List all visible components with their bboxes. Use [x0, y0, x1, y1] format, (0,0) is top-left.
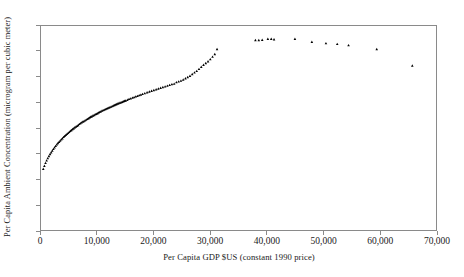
data-point-marker — [254, 39, 257, 41]
x-tick-label: 40,000 — [237, 236, 297, 246]
x-tick-mark — [96, 231, 97, 235]
data-point-marker — [180, 79, 183, 81]
data-point-marker — [182, 78, 185, 80]
data-point-marker — [209, 58, 212, 60]
y-axis-title: Per Capita Ambient Concentration (microg… — [1, 2, 15, 252]
x-tick-label: 60,000 — [350, 236, 410, 246]
data-point-marker — [164, 85, 167, 87]
data-point-marker — [46, 157, 49, 159]
data-point-marker — [42, 168, 45, 170]
plot-area — [40, 25, 437, 231]
data-point-marker — [216, 48, 219, 50]
data-point-marker — [166, 84, 169, 86]
data-point-marker — [191, 73, 194, 75]
data-point-marker — [198, 68, 201, 70]
data-point-marker — [325, 42, 328, 44]
data-point-marker — [155, 88, 158, 90]
data-point-marker — [189, 75, 192, 77]
data-point-marker — [202, 64, 205, 66]
y-tick-mark — [36, 205, 40, 206]
data-point-marker — [375, 48, 378, 50]
x-tick-label: 0 — [10, 236, 70, 246]
y-tick-mark — [36, 50, 40, 51]
data-point-marker — [159, 87, 162, 89]
data-point-marker — [144, 92, 147, 94]
data-point-marker — [148, 90, 151, 92]
data-point-marker — [200, 66, 203, 68]
data-point-marker — [347, 44, 350, 46]
y-tick-mark — [36, 179, 40, 180]
data-point-marker — [261, 39, 264, 41]
x-tick-mark — [380, 231, 381, 235]
data-point-marker — [162, 86, 165, 88]
data-point-marker — [150, 90, 153, 92]
x-tick-mark — [153, 231, 154, 235]
data-point-marker — [336, 43, 339, 45]
data-point-marker — [48, 155, 51, 157]
data-point-marker — [204, 62, 207, 64]
data-point-marker — [44, 162, 47, 164]
y-tick-mark — [36, 128, 40, 129]
data-point-marker — [207, 60, 210, 62]
x-axis-title: Per Capita GDP $US (constant 1990 price) — [40, 252, 438, 262]
data-point-marker — [193, 71, 196, 73]
chart-figure: Per Capita Ambient Concentration (microg… — [0, 0, 464, 277]
data-point-marker — [273, 38, 276, 40]
x-tick-label: 20,000 — [123, 236, 183, 246]
data-point-marker — [311, 41, 314, 43]
y-tick-mark — [36, 76, 40, 77]
data-point-marker — [175, 81, 178, 83]
data-point-marker — [411, 64, 414, 66]
data-point-marker — [146, 91, 149, 93]
x-tick-mark — [40, 231, 41, 235]
data-point-marker — [184, 77, 187, 79]
x-tick-mark — [323, 231, 324, 235]
scatter-points — [41, 26, 436, 230]
data-point-marker — [157, 87, 160, 89]
y-tick-mark — [36, 102, 40, 103]
x-tick-mark — [437, 231, 438, 235]
data-point-marker — [177, 80, 180, 82]
data-point-marker — [173, 82, 176, 84]
x-tick-mark — [210, 231, 211, 235]
data-point-marker — [214, 53, 217, 55]
data-point-marker — [258, 39, 261, 41]
x-tick-label: 10,000 — [67, 236, 127, 246]
data-point-marker — [270, 38, 273, 40]
data-point-marker — [211, 55, 214, 57]
y-tick-mark — [36, 25, 40, 26]
data-point-marker — [195, 70, 198, 72]
data-point-marker — [153, 89, 156, 91]
data-point-marker — [141, 93, 144, 95]
x-tick-label: 30,000 — [180, 236, 240, 246]
data-point-marker — [294, 38, 297, 40]
data-point-marker — [171, 83, 174, 85]
x-tick-mark — [266, 231, 267, 235]
data-point-marker — [43, 165, 46, 167]
data-point-marker — [186, 76, 189, 78]
data-point-marker — [168, 84, 171, 86]
data-point-marker — [267, 38, 270, 40]
y-tick-mark — [36, 153, 40, 154]
data-point-marker — [45, 159, 48, 161]
x-tick-label: 70,000 — [407, 236, 464, 246]
x-tick-label: 50,000 — [294, 236, 354, 246]
